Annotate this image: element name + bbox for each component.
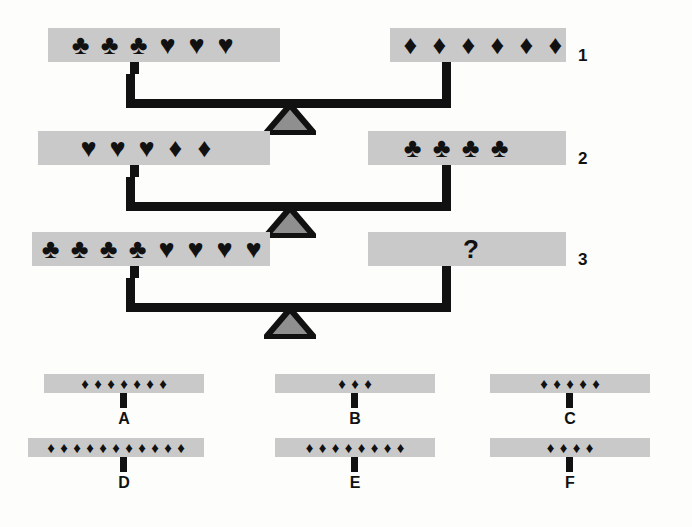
option-a-diamond-4: ♦ bbox=[118, 376, 131, 391]
option-b-label[interactable]: B bbox=[343, 410, 367, 428]
scale-3-fulcrum bbox=[264, 307, 316, 339]
option-d-diamond-10: ♦ bbox=[162, 440, 175, 455]
option-b-post bbox=[351, 393, 358, 408]
option-e-diamond-2: ♦ bbox=[316, 440, 329, 455]
option-d-post bbox=[120, 457, 127, 472]
scale-1-right-stub bbox=[442, 62, 451, 74]
option-c-diamond-3: ♦ bbox=[564, 376, 577, 391]
option-c-pan[interactable]: ♦♦♦♦♦ bbox=[490, 374, 650, 393]
scale-1-right-glyphs: ♦♦♦♦♦♦ bbox=[396, 32, 570, 59]
option-e-diamond-3: ♦ bbox=[329, 440, 342, 455]
option-e[interactable]: ♦♦♦♦♦♦♦♦ E bbox=[275, 438, 435, 490]
option-f[interactable]: ♦♦♦♦ F bbox=[490, 438, 650, 490]
scale-3-left-pan: ♣♣♣♣♥♥♥♥ bbox=[32, 232, 270, 266]
scale-2-left-stub bbox=[130, 165, 139, 177]
option-d-diamond-1: ♦ bbox=[45, 440, 58, 455]
option-b-pan[interactable]: ♦♦♦ bbox=[275, 374, 435, 393]
scale-2-right-stub bbox=[442, 165, 451, 177]
scale-3-number: 3 bbox=[578, 250, 587, 270]
option-b[interactable]: ♦♦♦ B bbox=[275, 374, 435, 426]
option-c-diamond-5: ♦ bbox=[590, 376, 603, 391]
option-a-post bbox=[120, 393, 127, 408]
scale-1-left-club-2: ♣ bbox=[95, 32, 124, 59]
option-e-diamond-7: ♦ bbox=[381, 440, 394, 455]
option-d[interactable]: ♦♦♦♦♦♦♦♦♦♦♦ D bbox=[28, 438, 204, 490]
option-f-label[interactable]: F bbox=[558, 474, 582, 492]
scale-2-fulcrum bbox=[264, 206, 316, 238]
scale-3-left-heart-5: ♥ bbox=[152, 236, 181, 263]
option-e-diamond-6: ♦ bbox=[368, 440, 381, 455]
scale-2-left-diamond-5: ♦ bbox=[190, 135, 219, 162]
scale-1-left-club-3: ♣ bbox=[124, 32, 153, 59]
scale-1-right-pan: ♦♦♦♦♦♦ bbox=[390, 28, 566, 62]
option-d-diamond-9: ♦ bbox=[149, 440, 162, 455]
scale-1-left-heart-4: ♥ bbox=[153, 32, 182, 59]
option-f-diamond-1: ♦ bbox=[544, 440, 557, 455]
scale-2-left-diamond-4: ♦ bbox=[161, 135, 190, 162]
scale-1-left-heart-5: ♥ bbox=[182, 32, 211, 59]
scale-3-left-club-4: ♣ bbox=[123, 236, 152, 263]
option-b-glyphs: ♦♦♦ bbox=[336, 376, 375, 391]
option-e-label[interactable]: E bbox=[343, 474, 367, 492]
option-d-label[interactable]: D bbox=[112, 474, 136, 492]
option-d-diamond-7: ♦ bbox=[123, 440, 136, 455]
option-f-pan[interactable]: ♦♦♦♦ bbox=[490, 438, 650, 457]
scale-3-left-heart-8: ♥ bbox=[239, 236, 268, 263]
scale-3-left-club-2: ♣ bbox=[65, 236, 94, 263]
option-f-diamond-4: ♦ bbox=[583, 440, 596, 455]
option-c-label[interactable]: C bbox=[558, 410, 582, 428]
option-a-diamond-5: ♦ bbox=[131, 376, 144, 391]
option-f-diamond-3: ♦ bbox=[570, 440, 583, 455]
option-b-diamond-3: ♦ bbox=[362, 376, 375, 391]
scale-1-right-diamond-2: ♦ bbox=[425, 32, 454, 59]
scale-3-left-glyphs: ♣♣♣♣♥♥♥♥ bbox=[36, 236, 268, 263]
option-a-diamond-1: ♦ bbox=[79, 376, 92, 391]
scale-2-right-pan: ♣♣♣♣ bbox=[368, 131, 566, 165]
option-f-post bbox=[566, 457, 573, 472]
option-f-glyphs: ♦♦♦♦ bbox=[544, 440, 596, 455]
scale-2-right-club-2: ♣ bbox=[427, 135, 456, 162]
scale-2-left-heart-1: ♥ bbox=[74, 135, 103, 162]
option-a-diamond-6: ♦ bbox=[144, 376, 157, 391]
scale-3-right-stub bbox=[442, 266, 451, 278]
option-e-diamond-4: ♦ bbox=[342, 440, 355, 455]
option-c-diamond-2: ♦ bbox=[551, 376, 564, 391]
scale-1-right-diamond-3: ♦ bbox=[454, 32, 483, 59]
option-f-diamond-2: ♦ bbox=[557, 440, 570, 455]
scale-1-right-diamond-4: ♦ bbox=[483, 32, 512, 59]
option-d-diamond-5: ♦ bbox=[97, 440, 110, 455]
balance-scale-puzzle: ♣♣♣♥♥♥ ♦♦♦♦♦♦ 1 ♥♥♥♦♦ ♣♣♣♣ bbox=[0, 0, 692, 527]
option-c-diamond-4: ♦ bbox=[577, 376, 590, 391]
scale-2-left-heart-3: ♥ bbox=[132, 135, 161, 162]
option-e-post bbox=[351, 457, 358, 472]
unknown-weight-question-mark: ? bbox=[463, 236, 479, 262]
scale-2-number: 2 bbox=[578, 149, 587, 169]
scale-1-right-diamond-6: ♦ bbox=[541, 32, 570, 59]
scale-3-left-heart-7: ♥ bbox=[210, 236, 239, 263]
option-a[interactable]: ♦♦♦♦♦♦♦ A bbox=[44, 374, 204, 426]
scale-2-left-heart-2: ♥ bbox=[103, 135, 132, 162]
triangle-icon bbox=[264, 206, 316, 238]
scale-2-left-pan: ♥♥♥♦♦ bbox=[38, 131, 270, 165]
scale-1-right-diamond-5: ♦ bbox=[512, 32, 541, 59]
scale-3-right-pan: ? bbox=[368, 232, 566, 266]
option-e-pan[interactable]: ♦♦♦♦♦♦♦♦ bbox=[275, 438, 435, 457]
option-d-diamond-2: ♦ bbox=[58, 440, 71, 455]
option-a-glyphs: ♦♦♦♦♦♦♦ bbox=[79, 376, 170, 391]
scale-1-left-stub bbox=[130, 62, 139, 74]
option-d-pan[interactable]: ♦♦♦♦♦♦♦♦♦♦♦ bbox=[28, 438, 204, 457]
option-a-pan[interactable]: ♦♦♦♦♦♦♦ bbox=[44, 374, 204, 393]
option-e-diamond-5: ♦ bbox=[355, 440, 368, 455]
option-c[interactable]: ♦♦♦♦♦ C bbox=[490, 374, 650, 426]
option-d-glyphs: ♦♦♦♦♦♦♦♦♦♦♦ bbox=[45, 440, 188, 455]
scale-2-right-club-3: ♣ bbox=[456, 135, 485, 162]
option-a-diamond-3: ♦ bbox=[105, 376, 118, 391]
scale-1-left-heart-6: ♥ bbox=[211, 32, 240, 59]
option-a-diamond-7: ♦ bbox=[157, 376, 170, 391]
option-d-diamond-11: ♦ bbox=[175, 440, 188, 455]
option-a-label[interactable]: A bbox=[112, 410, 136, 428]
scale-1-left-glyphs: ♣♣♣♥♥♥ bbox=[66, 32, 240, 59]
option-c-diamond-1: ♦ bbox=[538, 376, 551, 391]
scale-1-right-diamond-1: ♦ bbox=[396, 32, 425, 59]
scale-3-left-stub bbox=[130, 266, 139, 278]
